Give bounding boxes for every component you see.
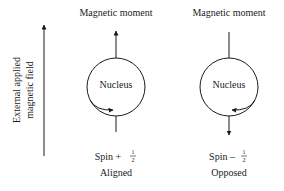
spin-fraction-num: 1 [243,149,246,155]
magnetic-moment-label: Magnetic moment [192,7,265,18]
spin-rotation-arrow-icon [232,100,255,110]
spin-fraction-den: 2 [132,157,135,163]
spin-value: Spin + [95,151,122,162]
nucleus-label: Nucleus [213,79,246,90]
opposed-state: Magnetic moment Nucleus Spin – 1 2 Oppos… [192,7,265,178]
magnetic-moment-label: Magnetic moment [79,7,152,18]
external-field-axis: External applied magnetic field [11,25,44,156]
spin-rotation-arrow-icon [90,100,113,110]
orientation-label: Opposed [211,167,247,178]
nucleus-label: Nucleus [100,79,133,90]
field-label-line1: External applied [11,57,22,123]
spin-value: Spin – [209,151,236,162]
nmr-spin-diagram: External applied magnetic field Magnetic… [0,0,284,191]
spin-fraction-num: 1 [132,149,135,155]
field-label-line2: magnetic field [24,61,35,118]
orientation-label: Aligned [100,167,132,178]
spin-fraction-den: 2 [243,157,246,163]
aligned-state: Magnetic moment Nucleus Spin + 1 2 Align… [79,7,152,178]
